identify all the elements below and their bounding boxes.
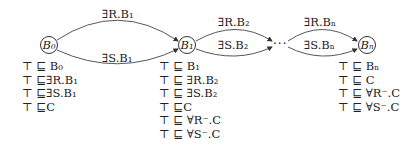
axiom: ⊤ ⊑ C (338, 74, 400, 88)
axiom: ⊤ ⊑ ∀R⁻.C (159, 114, 221, 128)
axiom: ⊤ ⊑ ∀S⁻.C (159, 128, 221, 142)
axioms-Bn: ⊤ ⊑ Bₙ ⊤ ⊑ C ⊤ ⊑ ∀R⁻.C ⊤ ⊑ ∀S⁻.C (338, 60, 400, 114)
axiom: ⊤ ⊑∃S.B₁ (22, 87, 78, 101)
axiom: ⊤ ⊑ ∀S⁻.C (338, 101, 400, 115)
edge-label-R-B1: ∃R.B₁ (102, 9, 134, 21)
axiom: ⊤ ⊑ ∃R.B₂ (159, 74, 221, 88)
axiom: ⊤ ⊑C (22, 101, 78, 115)
edge-label-S-B2: ∃S.B₂ (218, 40, 248, 52)
axioms-B0: ⊤ ⊑ B₀ ⊤ ⊑∃R.B₁ ⊤ ⊑∃S.B₁ ⊤ ⊑C (22, 60, 78, 114)
edge-label-R-B2: ∃R.B₂ (218, 17, 250, 29)
axiom: ⊤ ⊑ B₀ (22, 60, 78, 74)
axioms-B1: ⊤ ⊑ B₁ ⊤ ⊑ ∃R.B₂ ⊤ ⊑ ∃S.B₂ ⊤ ⊑C ⊤ ⊑ ∀R⁻.… (159, 60, 221, 142)
edge-label-R-Bn: ∃R.Bₙ (304, 17, 336, 29)
axiom: ⊤ ⊑ Bₙ (338, 60, 400, 74)
node-B1: B₁ (178, 36, 196, 54)
axiom: ⊤ ⊑C (159, 101, 221, 115)
axiom: ⊤ ⊑∃R.B₁ (22, 74, 78, 88)
node-B0: B₀ (40, 36, 58, 54)
axiom: ⊤ ⊑ ∀R⁻.C (338, 87, 400, 101)
edge-label-S-B1: ∃S.B₁ (102, 53, 132, 65)
ellipsis: ··· (273, 37, 287, 51)
node-Bn: Bₙ (358, 36, 376, 54)
axiom: ⊤ ⊑ B₁ (159, 60, 221, 74)
edge-B0-B1-R (57, 20, 178, 41)
edge-label-S-Bn: ∃S.Bₙ (304, 40, 335, 52)
axiom: ⊤ ⊑ ∃S.B₂ (159, 87, 221, 101)
